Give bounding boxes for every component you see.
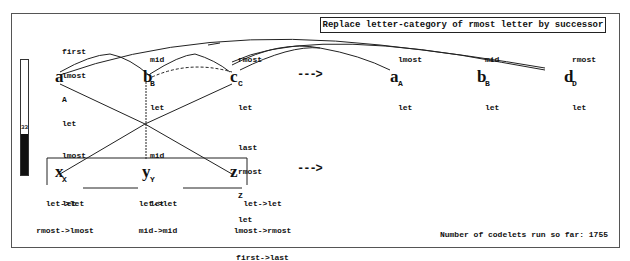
desc-a2: lmost A let	[398, 40, 422, 120]
desc-d: rmost D let	[572, 40, 596, 120]
desc-line: lmost	[62, 152, 86, 160]
desc-b2: mid B let	[485, 40, 499, 120]
desc-line: let	[398, 104, 422, 112]
temperature-fill	[21, 134, 28, 175]
letter-b: b	[143, 68, 152, 85]
letter-z: z	[230, 163, 238, 180]
mapping-line: rmost->lmost	[30, 227, 100, 235]
temperature-gauge: 33	[20, 59, 29, 176]
desc-line: B	[485, 80, 499, 88]
letter-x: x	[55, 163, 64, 180]
desc-line: let	[62, 120, 86, 128]
mapping-line: let->let	[30, 200, 100, 208]
desc-line: let	[238, 104, 262, 112]
desc-line: lmost	[398, 56, 422, 64]
letter-c: c	[230, 68, 238, 85]
desc-a: first lmost A let	[62, 32, 86, 136]
desc-line: last	[238, 144, 262, 152]
desc-line: Y	[150, 176, 164, 184]
desc-line: mid	[485, 56, 499, 64]
mapping-x: let->let rmost->lmost	[30, 184, 100, 243]
letter-y: y	[142, 163, 151, 180]
mapping-line: let->let	[230, 200, 295, 208]
transform-arrow-bottom: --->	[297, 162, 322, 176]
codelet-count-status: Number of codelets run so far: 1755	[440, 230, 608, 239]
mapping-z: let->let lmost->rmost first->last	[230, 184, 295, 261]
desc-line: rmost	[238, 56, 262, 64]
desc-line: X	[62, 176, 86, 184]
letter-b2: b	[477, 68, 486, 85]
letter-a: a	[55, 68, 64, 85]
desc-line: lmost	[62, 72, 86, 80]
transform-arrow-top: --->	[297, 68, 322, 82]
desc-line: mid	[150, 56, 164, 64]
mapping-line: let->let	[128, 200, 188, 208]
mapping-line: mid->mid	[128, 227, 188, 235]
mapping-line: first->last	[230, 254, 295, 261]
desc-line: rmost	[238, 168, 262, 176]
desc-line: let	[485, 104, 499, 112]
desc-line: rmost	[572, 56, 596, 64]
desc-line: let	[150, 104, 164, 112]
letter-a2: a	[390, 68, 399, 85]
rule-box: Replace letter-category of rmost letter …	[320, 17, 606, 33]
mapping-line: lmost->rmost	[230, 227, 295, 235]
desc-line: A	[62, 96, 86, 104]
letter-d: d	[564, 68, 573, 85]
desc-line: first	[62, 48, 86, 56]
desc-line: C	[238, 80, 262, 88]
temperature-value: 33	[21, 124, 28, 131]
desc-line: mid	[150, 152, 164, 160]
mapping-y: let->let mid->mid	[128, 184, 188, 243]
desc-line: A	[398, 80, 422, 88]
desc-line: D	[572, 80, 596, 88]
desc-line: let	[572, 104, 596, 112]
desc-c: rmost C let	[238, 40, 262, 120]
